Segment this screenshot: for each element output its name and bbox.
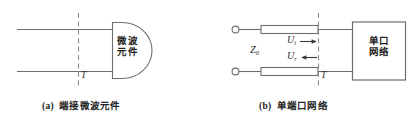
panel-a-reference-plane-label: T bbox=[81, 70, 86, 81]
panel-b-caption-text: 单端口网络 bbox=[277, 100, 329, 111]
reflected-wave-label: Ur bbox=[287, 50, 297, 61]
reflected-wave-subscript: r bbox=[294, 55, 297, 62]
incident-wave-subscript: i bbox=[294, 39, 296, 46]
microwave-component-label: 微波 元件 bbox=[114, 36, 141, 57]
terminal-circle-icon-top bbox=[232, 26, 239, 33]
one-port-network-label: 单口 网络 bbox=[365, 36, 393, 57]
impedance-symbol: Z bbox=[250, 44, 256, 55]
characteristic-impedance-label: Z0 bbox=[250, 44, 259, 56]
microwave-component-label-line2: 元件 bbox=[114, 47, 141, 58]
panel-a-caption-index: (a) bbox=[42, 101, 54, 111]
one-port-network-label-line2: 网络 bbox=[365, 47, 393, 58]
panel-a-caption: (a)端接微波元件 bbox=[42, 101, 121, 112]
arrow-right-icon-incident bbox=[300, 39, 317, 43]
panel-b-lower-line-bar bbox=[261, 68, 318, 76]
panel-b-upper-line-bar bbox=[261, 26, 318, 34]
terminal-circle-icon-bottom bbox=[232, 68, 239, 75]
microwave-network-figure: 微波 元件 T (a)端接微波元件 Z0 Ui Ur 单口 网络 T (b)单端… bbox=[0, 0, 417, 124]
panel-a-caption-text: 端接微波元件 bbox=[59, 100, 121, 111]
panel-b-caption-index: (b) bbox=[259, 101, 272, 111]
impedance-subscript: 0 bbox=[256, 49, 259, 56]
arrow-left-icon-reflected bbox=[301, 55, 317, 59]
panel-b-reference-plane-label: T bbox=[321, 70, 326, 81]
panel-b-caption: (b)单端口网络 bbox=[259, 101, 328, 112]
incident-wave-label: Ui bbox=[287, 34, 296, 45]
